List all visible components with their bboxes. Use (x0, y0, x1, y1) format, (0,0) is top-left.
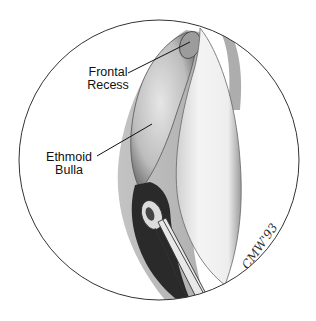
ethmoid-bulla-label: Ethmoid Bulla (40, 151, 98, 177)
ethmoid-bulla-label-line2: Bulla (40, 164, 98, 177)
frontal-recess-label-line2: Recess (78, 79, 138, 92)
frontal-recess-label: Frontal Recess (78, 66, 138, 92)
